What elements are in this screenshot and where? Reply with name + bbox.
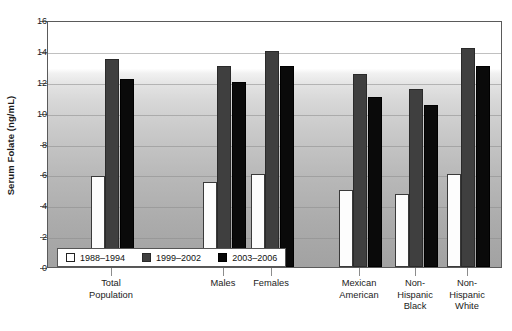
y-tick-label: 16 — [13, 16, 47, 26]
x-tick-mark — [111, 268, 112, 276]
legend-swatch-icon — [218, 253, 227, 262]
chart-legend: 1988–19941999–20022003–2006 — [57, 248, 286, 267]
x-category-label: Non- Hispanic Black — [397, 278, 433, 313]
bar — [217, 66, 231, 267]
bar — [424, 105, 438, 267]
bar — [105, 59, 119, 267]
bar — [232, 82, 246, 267]
chart-figure: Serum Folate (ng/mL) 0246810121416 1988–… — [0, 0, 512, 331]
x-tick-mark — [271, 268, 272, 276]
legend-item: 1999–2002 — [142, 253, 201, 263]
x-category-label: Non- Hispanic White — [449, 278, 485, 313]
bar — [339, 190, 353, 267]
bar — [265, 51, 279, 267]
bar — [368, 97, 382, 267]
legend-item: 2003–2006 — [218, 253, 277, 263]
x-tick-mark — [467, 268, 468, 276]
y-tick-label: 12 — [13, 78, 47, 88]
legend-swatch-icon — [66, 253, 75, 262]
legend-label: 1988–1994 — [80, 253, 125, 263]
y-tick-label: 10 — [13, 109, 47, 119]
x-category-label: Females — [253, 278, 289, 290]
legend-swatch-icon — [142, 253, 151, 262]
bar — [476, 66, 490, 267]
x-category-label: Males — [211, 278, 236, 290]
y-axis-ticks: 0246810121416 — [0, 0, 47, 331]
y-tick-label: 14 — [13, 47, 47, 57]
legend-label: 1999–2002 — [156, 253, 201, 263]
x-category-label: Total Population — [89, 278, 133, 301]
x-tick-mark — [359, 268, 360, 276]
y-tick-label: 2 — [13, 232, 47, 242]
bar — [353, 74, 367, 267]
x-tick-mark — [223, 268, 224, 276]
x-category-label: Mexican American — [339, 278, 378, 301]
legend-item: 1988–1994 — [66, 253, 125, 263]
y-tick-label: 4 — [13, 201, 47, 211]
y-tick-label: 8 — [13, 140, 47, 150]
y-tick-label: 6 — [13, 170, 47, 180]
y-tick-label: 0 — [13, 263, 47, 273]
x-axis: Total PopulationMalesFemalesMexican Amer… — [47, 268, 502, 331]
bar — [409, 89, 423, 267]
bar — [461, 48, 475, 267]
legend-label: 2003–2006 — [232, 253, 277, 263]
x-tick-mark — [415, 268, 416, 276]
bar — [120, 79, 134, 267]
bar — [280, 66, 294, 267]
bar — [395, 194, 409, 267]
plot-area — [47, 21, 502, 268]
bar — [447, 174, 461, 267]
